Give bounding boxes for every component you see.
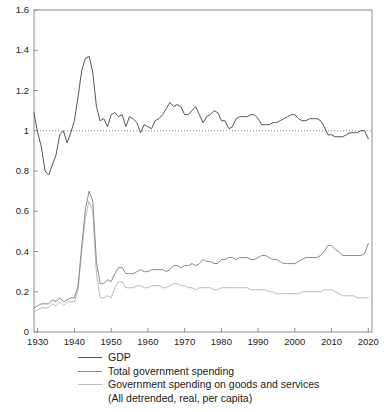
legend-item-gdp: GDP — [78, 351, 378, 365]
x-tick-label: 1940 — [54, 337, 94, 347]
y-tick-label: 1.2 — [16, 86, 29, 96]
y-tick-label: 0.8 — [16, 166, 29, 176]
y-tick-label: 0.2 — [16, 287, 29, 297]
x-tick-label: 1970 — [165, 337, 205, 347]
legend-swatch-gdp — [78, 357, 102, 358]
legend-label-goods-and-services: Government spending on goods and service… — [108, 378, 319, 392]
x-tick-label: 1990 — [238, 337, 278, 347]
legend-item-total-government-spending: Total government spending — [78, 365, 378, 379]
chart-figure: 00.20.40.60.811.21.41.6 1930194019501960… — [0, 0, 384, 412]
legend-label-gdp: GDP — [108, 351, 131, 365]
y-tick-label: 0.4 — [16, 247, 29, 257]
x-tick-label: 2020 — [348, 337, 384, 347]
x-tick-label: 1930 — [18, 337, 58, 347]
x-tick-label: 1950 — [91, 337, 131, 347]
x-tick-label: 1980 — [201, 337, 241, 347]
x-tick-label: 2000 — [275, 337, 315, 347]
legend-swatch-goods-and-services — [78, 384, 102, 385]
y-tick-label: 1 — [24, 126, 29, 136]
legend-note-row: (All detrended, real, per capita) — [78, 392, 378, 406]
legend-note: (All detrended, real, per capita) — [108, 392, 252, 406]
y-tick-label: 1.6 — [16, 5, 29, 15]
x-tick-label: 2010 — [312, 337, 352, 347]
legend-swatch-total-government-spending — [78, 371, 102, 372]
y-tick-label: 1.4 — [16, 45, 29, 55]
chart-legend: GDP Total government spending Government… — [78, 351, 378, 405]
x-tick-label: 1960 — [128, 337, 168, 347]
legend-label-total-government-spending: Total government spending — [108, 365, 234, 379]
y-tick-label: 0.6 — [16, 206, 29, 216]
legend-item-goods-and-services: Government spending on goods and service… — [78, 378, 378, 392]
